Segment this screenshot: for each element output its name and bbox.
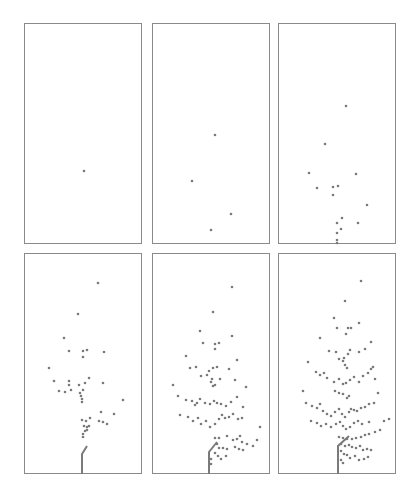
data-point: [102, 382, 105, 385]
data-point: [224, 417, 227, 420]
data-point: [81, 401, 84, 404]
data-point: [200, 423, 203, 426]
data-point: [342, 360, 345, 363]
data-point: [211, 378, 214, 381]
data-point: [236, 396, 239, 399]
data-point: [217, 455, 220, 458]
data-point: [259, 426, 262, 429]
data-point: [83, 170, 86, 173]
data-point: [189, 367, 192, 370]
data-point: [218, 437, 221, 440]
data-point: [338, 358, 341, 361]
data-point: [358, 381, 361, 384]
data-point: [212, 311, 215, 314]
data-point: [226, 448, 229, 451]
data-point: [335, 351, 338, 354]
data-point: [356, 410, 359, 413]
data-point: [351, 438, 354, 441]
data-point: [245, 386, 248, 389]
data-point: [88, 425, 91, 428]
data-point: [204, 402, 207, 405]
data-point: [192, 420, 195, 423]
data-point: [338, 408, 341, 411]
data-point: [341, 413, 344, 416]
data-point: [89, 417, 92, 420]
data-point: [366, 204, 369, 207]
data-point: [342, 383, 345, 386]
data-point: [225, 455, 228, 458]
data-point: [48, 367, 51, 370]
data-point: [322, 410, 325, 413]
data-point: [308, 172, 311, 175]
data-point: [68, 350, 71, 353]
data-point: [185, 355, 188, 358]
plot-area: [279, 24, 397, 245]
data-point: [106, 423, 109, 426]
data-point: [80, 395, 83, 398]
data-point: [225, 405, 228, 408]
data-point: [185, 399, 188, 402]
data-point: [349, 349, 352, 352]
data-point: [343, 357, 346, 360]
data-point: [79, 392, 82, 395]
data-point: [68, 380, 71, 383]
data-point: [367, 372, 370, 375]
scatter-panel-5: [152, 253, 270, 474]
data-point: [349, 457, 352, 460]
data-point: [194, 404, 197, 407]
data-point: [58, 390, 61, 393]
data-point: [350, 408, 353, 411]
data-point: [316, 422, 319, 425]
data-point: [364, 406, 367, 409]
data-point: [214, 452, 217, 455]
data-point: [340, 228, 343, 231]
data-point: [339, 421, 342, 424]
data-point: [319, 337, 322, 340]
data-point: [239, 435, 242, 438]
data-point: [357, 420, 360, 423]
data-point: [82, 433, 85, 436]
data-point: [325, 423, 328, 426]
data-point: [368, 403, 371, 406]
data-point: [214, 343, 217, 346]
data-point: [82, 350, 85, 353]
data-point: [242, 449, 245, 452]
data-point: [208, 370, 211, 373]
data-point: [241, 417, 244, 420]
data-point: [345, 382, 348, 385]
data-point: [374, 431, 377, 434]
data-point: [236, 359, 239, 362]
data-point: [336, 222, 339, 225]
data-point: [234, 446, 237, 449]
data-point: [328, 350, 331, 353]
data-point: [214, 437, 217, 440]
data-point: [81, 419, 84, 422]
data-point: [388, 418, 391, 421]
data-point: [232, 413, 235, 416]
data-point: [345, 333, 348, 336]
plot-area: [153, 24, 271, 245]
data-point: [242, 406, 245, 409]
data-point: [113, 413, 116, 416]
data-point: [373, 402, 376, 405]
data-point: [316, 187, 319, 190]
data-point: [360, 407, 363, 410]
data-point: [98, 420, 101, 423]
data-point: [219, 378, 222, 381]
data-point: [81, 398, 84, 401]
data-point: [348, 444, 351, 447]
data-point: [202, 342, 205, 345]
data-point: [341, 217, 344, 220]
data-point: [367, 456, 370, 459]
data-point: [86, 349, 89, 352]
data-point: [344, 300, 347, 303]
data-point: [83, 425, 86, 428]
data-point: [122, 399, 125, 402]
data-point: [342, 425, 345, 428]
data-point: [63, 337, 66, 340]
data-point: [218, 447, 221, 450]
data-point: [77, 313, 80, 316]
data-point: [353, 422, 356, 425]
data-point: [338, 392, 341, 395]
data-point: [191, 400, 194, 403]
